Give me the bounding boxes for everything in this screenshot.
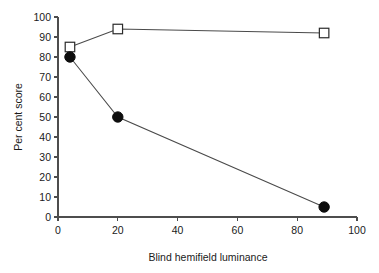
x-tick-label: 20: [112, 224, 124, 236]
clipped-caption: [12, 268, 368, 273]
series-line-open-square-series: [70, 29, 324, 47]
y-tick-label: 0: [45, 211, 51, 223]
x-tick-label: 0: [55, 224, 61, 236]
y-tick-label: 60: [39, 91, 51, 103]
y-tick-label: 10: [39, 191, 51, 203]
x-axis-title: Blind hemifield luminance: [148, 251, 267, 263]
x-tick-label: 100: [348, 224, 366, 236]
axes-group: 0102030405060708090100020406080100: [33, 11, 365, 236]
y-tick-label: 90: [39, 31, 51, 43]
x-tick-label: 60: [232, 224, 244, 236]
data-point-open-square: [319, 28, 329, 38]
line-chart: 0102030405060708090100020406080100 Blind…: [0, 0, 379, 273]
data-point-filled-circle: [113, 112, 123, 122]
data-point-open-square: [65, 42, 75, 52]
y-tick-label: 50: [39, 111, 51, 123]
series-group: [65, 24, 330, 212]
chart-figure: 0102030405060708090100020406080100 Blind…: [0, 0, 379, 273]
data-point-open-square: [113, 24, 123, 34]
y-tick-label: 70: [39, 71, 51, 83]
x-tick-label: 80: [291, 224, 303, 236]
y-tick-label: 30: [39, 151, 51, 163]
y-tick-label: 20: [39, 171, 51, 183]
y-tick-label: 80: [39, 51, 51, 63]
x-tick-label: 40: [172, 224, 184, 236]
series-line-filled-circle-series: [70, 57, 324, 207]
y-tick-label: 40: [39, 131, 51, 143]
y-tick-label: 100: [33, 11, 51, 23]
data-point-filled-circle: [65, 52, 75, 62]
data-point-filled-circle: [319, 202, 329, 212]
y-axis-title: Per cent score: [12, 83, 24, 151]
